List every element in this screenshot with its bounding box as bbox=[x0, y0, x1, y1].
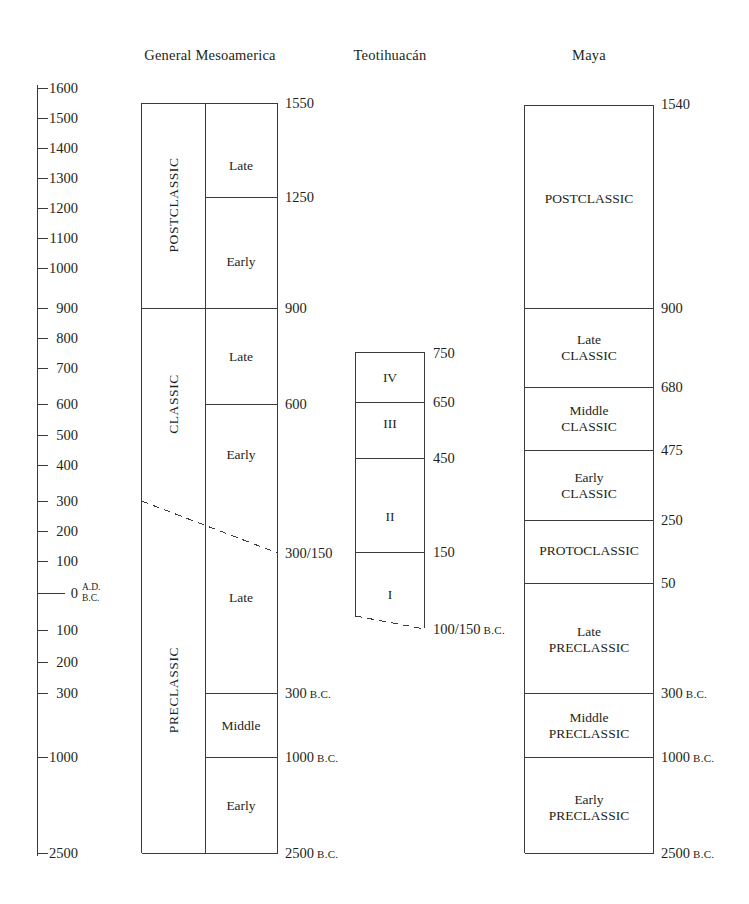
gm-date-label-5-suffix: B.C. bbox=[307, 688, 331, 700]
gm-date-label-0: 1550 bbox=[285, 95, 314, 112]
gm-sub-label-2: Late bbox=[229, 349, 253, 365]
maya-period-label-2-line2: CLASSIC bbox=[561, 419, 617, 435]
maya-period-label-3-line1: Early bbox=[561, 470, 617, 486]
maya-period-label-0-line1: POSTCLASSIC bbox=[545, 191, 634, 207]
axis-tick-label-12: 400 bbox=[0, 457, 78, 474]
teotihuacan-date-label-2: 450 bbox=[433, 450, 455, 467]
maya-date-label-8-value: 2500 bbox=[661, 845, 690, 861]
maya-date-label-5: 50 bbox=[661, 575, 676, 592]
maya-date-label-6-suffix: B.C. bbox=[683, 688, 707, 700]
teotihuacan-date-label-1: 650 bbox=[433, 394, 455, 411]
gm-major-label-2: PRECLASSIC bbox=[166, 647, 182, 733]
gm-major-label-1: CLASSIC bbox=[166, 374, 182, 434]
teotihuacan-date-label-0: 750 bbox=[433, 345, 455, 362]
gm-date-label-6-suffix: B.C. bbox=[314, 752, 338, 764]
gm-date-label-6: 1000 B.C. bbox=[285, 749, 338, 766]
teotihuacan-date-label-3-value: 150 bbox=[433, 544, 455, 560]
chart-lines-svg bbox=[0, 0, 749, 904]
maya-date-label-7: 1000 B.C. bbox=[661, 749, 714, 766]
axis-tick-label-0: 1600 bbox=[0, 80, 78, 97]
maya-date-label-6-value: 300 bbox=[661, 685, 683, 701]
gm-date-label-4-value: 300/150 bbox=[285, 545, 333, 561]
chronology-chart: General Mesoamerica Teotihuacán Maya 160… bbox=[0, 0, 749, 904]
axis-tick-label-20: 1000 bbox=[0, 749, 78, 766]
teotihuacan-date-label-3: 150 bbox=[433, 544, 455, 561]
axis-tick-label-1: 1500 bbox=[0, 110, 78, 127]
gm-date-label-7-suffix: B.C. bbox=[314, 848, 338, 860]
maya-date-label-2-value: 680 bbox=[661, 379, 683, 395]
gm-date-label-2-value: 900 bbox=[285, 300, 307, 316]
axis-tick-label-14: 200 bbox=[0, 523, 78, 540]
gm-date-label-5-value: 300 bbox=[285, 685, 307, 701]
gm-date-label-3-value: 600 bbox=[285, 396, 307, 412]
gm-date-label-4: 300/150 bbox=[285, 545, 333, 562]
maya-date-label-7-suffix: B.C. bbox=[690, 752, 714, 764]
gm-sub-label-0: Late bbox=[229, 158, 253, 174]
gm-date-label-1: 1250 bbox=[285, 189, 314, 206]
axis-tick-label-21: 2500 bbox=[0, 845, 78, 862]
axis-tick-label-3: 1300 bbox=[0, 170, 78, 187]
axis-tick-label-4: 1200 bbox=[0, 200, 78, 217]
axis-tick-label-10: 600 bbox=[0, 396, 78, 413]
era-marker: A.D. B.C. bbox=[82, 582, 100, 604]
axis-tick-label-13: 300 bbox=[0, 493, 78, 510]
teotihuacan-phase-label-2: II bbox=[386, 509, 395, 525]
axis-tick-label-6: 1000 bbox=[0, 260, 78, 277]
gm-date-label-2: 900 bbox=[285, 300, 307, 317]
maya-date-label-2: 680 bbox=[661, 379, 683, 396]
gm-date-label-7-value: 2500 bbox=[285, 845, 314, 861]
maya-period-label-7-line2: PRECLASSIC bbox=[549, 808, 629, 824]
axis-tick-label-8: 800 bbox=[0, 330, 78, 347]
maya-period-label-4-line1: PROTOCLASSIC bbox=[539, 543, 639, 559]
maya-period-label-5: LatePRECLASSIC bbox=[549, 624, 629, 656]
maya-date-label-8: 2500 B.C. bbox=[661, 845, 714, 862]
axis-tick-label-5: 1100 bbox=[0, 230, 78, 247]
maya-date-label-8-suffix: B.C. bbox=[690, 848, 714, 860]
column-header-teotihuacan: Teotihuacán bbox=[354, 47, 427, 64]
axis-tick-label-7: 900 bbox=[0, 300, 78, 317]
teotihuacan-date-label-4: 100/150 B.C. bbox=[433, 621, 505, 638]
teotihuacan-date-label-2-value: 450 bbox=[433, 450, 455, 466]
gm-date-label-5: 300 B.C. bbox=[285, 685, 331, 702]
gm-sub-label-1: Early bbox=[226, 254, 255, 270]
maya-period-label-2: MiddleCLASSIC bbox=[561, 403, 617, 435]
gm-sub-label-6: Early bbox=[226, 798, 255, 814]
maya-period-label-2-line1: Middle bbox=[561, 403, 617, 419]
gm-date-label-6-value: 1000 bbox=[285, 749, 314, 765]
teotihuacan-date-label-4-suffix: B.C. bbox=[481, 624, 505, 636]
maya-period-label-0: POSTCLASSIC bbox=[545, 191, 634, 207]
axis-tick-label-2: 1400 bbox=[0, 140, 78, 157]
maya-date-label-7-value: 1000 bbox=[661, 749, 690, 765]
maya-period-label-5-line2: PRECLASSIC bbox=[549, 640, 629, 656]
axis-tick-label-18: 200 bbox=[0, 654, 78, 671]
maya-period-label-6-line2: PRECLASSIC bbox=[549, 726, 629, 742]
gm-sub-label-4: Late bbox=[229, 590, 253, 606]
teotihuacan-phase-label-0: IV bbox=[383, 370, 397, 386]
gm-major-label-0: POSTCLASSIC bbox=[166, 157, 182, 252]
maya-period-label-1-line1: Late bbox=[561, 332, 617, 348]
maya-date-label-3: 475 bbox=[661, 442, 683, 459]
maya-date-label-6: 300 B.C. bbox=[661, 685, 707, 702]
gm-sub-label-5: Middle bbox=[222, 718, 261, 734]
maya-date-label-4-value: 250 bbox=[661, 512, 683, 528]
column-header-general-mesoamerica: General Mesoamerica bbox=[144, 47, 275, 64]
maya-period-label-6-line1: Middle bbox=[549, 710, 629, 726]
maya-period-label-7: EarlyPRECLASSIC bbox=[549, 792, 629, 824]
maya-date-label-3-value: 475 bbox=[661, 442, 683, 458]
teotihuacan-phase-label-3: I bbox=[388, 587, 393, 603]
maya-date-label-1-value: 900 bbox=[661, 300, 683, 316]
maya-date-label-1: 900 bbox=[661, 300, 683, 317]
axis-tick-label-11: 500 bbox=[0, 427, 78, 444]
gm-sub-label-3: Early bbox=[226, 447, 255, 463]
maya-period-label-3: EarlyCLASSIC bbox=[561, 470, 617, 502]
column-header-maya: Maya bbox=[572, 47, 606, 64]
gm-date-label-3: 600 bbox=[285, 396, 307, 413]
era-marker-bc: B.C. bbox=[82, 593, 100, 604]
era-marker-ad: A.D. bbox=[82, 582, 100, 593]
general-mesoamerica-box bbox=[142, 103, 278, 853]
maya-period-label-5-line1: Late bbox=[549, 624, 629, 640]
teotihuacan-date-label-4-value: 100/150 bbox=[433, 621, 481, 637]
maya-period-label-7-line1: Early bbox=[549, 792, 629, 808]
axis-tick-label-17: 100 bbox=[0, 622, 78, 639]
gm-dashed-transition bbox=[142, 501, 278, 553]
